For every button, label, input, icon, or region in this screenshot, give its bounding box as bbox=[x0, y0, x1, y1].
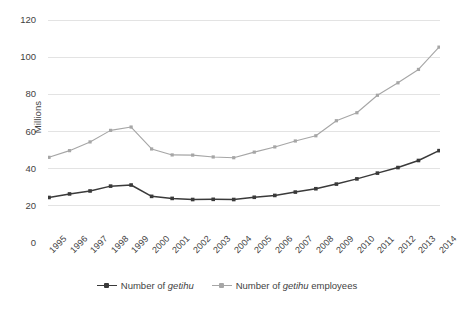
data-point: 2009: 65.8 bbox=[335, 119, 338, 122]
data-point: 1999: 31.2 bbox=[129, 183, 133, 187]
data-point: 2000: 50.6 bbox=[150, 147, 153, 150]
y-axis-tick-label: 120 bbox=[0, 15, 42, 25]
y-axis-tick-label: 20 bbox=[0, 201, 42, 211]
data-point: 2012: 86.2 bbox=[396, 81, 399, 84]
x-axis-tick-label: 2014 bbox=[437, 234, 459, 256]
data-point: 2012: 40.6 bbox=[396, 166, 400, 170]
data-point: 2005: 24.6 bbox=[252, 195, 256, 199]
legend-swatch-icon bbox=[97, 282, 117, 290]
y-axis-tick-label: 40 bbox=[0, 164, 42, 174]
data-point: 1996: 49.7 bbox=[68, 149, 71, 152]
data-point: 1997: 28 bbox=[88, 189, 92, 193]
data-point: 2008: 57.7 bbox=[314, 134, 317, 137]
data-point: 2003: 46.3 bbox=[212, 155, 215, 158]
data-point: 2011: 37.6 bbox=[376, 171, 380, 175]
data-point: 2008: 29.2 bbox=[314, 187, 318, 191]
data-point: 2014: 49.7 bbox=[437, 149, 440, 153]
y-axis-tick-labels: 020406080100120 bbox=[0, 0, 42, 311]
y-axis-tick-label: 60 bbox=[0, 127, 42, 137]
chart-plot-svg: 1995: 24.51996: 26.41997: 281998: 30.619… bbox=[48, 20, 440, 243]
data-point: 1996: 26.4 bbox=[68, 192, 72, 196]
y-axis-tick-label: 80 bbox=[0, 89, 42, 99]
data-point: 1995: 24.5 bbox=[48, 196, 51, 200]
legend-item-getihu[interactable]: Number of getihu bbox=[97, 280, 194, 291]
legend-label: Number of getihu employees bbox=[236, 280, 357, 291]
data-point: 2010: 70.1 bbox=[355, 111, 358, 114]
data-point: 2014: 105.4 bbox=[437, 46, 440, 49]
data-point: 2004: 45.9 bbox=[232, 156, 235, 159]
data-point: 1995: 46.1 bbox=[48, 156, 51, 159]
series-line bbox=[49, 47, 439, 158]
data-point: 2002: 23.4 bbox=[191, 198, 195, 202]
data-point: 2006: 51.7 bbox=[273, 145, 276, 148]
data-point: 2013: 44.4 bbox=[417, 159, 421, 163]
series-getihu: 1995: 24.51996: 26.41997: 281998: 30.619… bbox=[48, 149, 440, 201]
data-point: 2009: 31.7 bbox=[335, 182, 339, 186]
y-axis-tick-label: 0 bbox=[0, 238, 42, 248]
data-point: 2007: 54.9 bbox=[294, 139, 297, 142]
y-axis-tick-label: 100 bbox=[0, 52, 42, 62]
series-line bbox=[49, 151, 439, 200]
data-point: 1997: 54.4 bbox=[88, 140, 91, 143]
data-point: 2001: 47.4 bbox=[171, 153, 174, 156]
data-point: 1998: 60.6 bbox=[109, 129, 112, 132]
data-point: 1999: 62.4 bbox=[130, 125, 133, 128]
data-point: 2007: 27.4 bbox=[294, 190, 298, 194]
data-point: 1998: 30.6 bbox=[109, 184, 113, 188]
legend-item-getihu-employees[interactable]: Number of getihu employees bbox=[212, 280, 357, 291]
data-point: 2011: 79.5 bbox=[376, 94, 379, 97]
data-point: 2010: 34.5 bbox=[355, 177, 359, 181]
legend-swatch-icon bbox=[212, 282, 232, 290]
data-point: 2000: 25.1 bbox=[150, 195, 154, 199]
data-point: 2005: 48.9 bbox=[253, 151, 256, 154]
data-point: 2006: 25.6 bbox=[273, 194, 277, 198]
data-point: 2002: 47.3 bbox=[191, 154, 194, 157]
data-point: 2013: 93.4 bbox=[417, 68, 420, 71]
series-getihu-employees: 1995: 46.11996: 49.71997: 54.41998: 60.6… bbox=[48, 46, 440, 160]
chart-legend: Number of getihuNumber of getihu employe… bbox=[0, 280, 454, 291]
plot-area: 1995: 24.51996: 26.41997: 281998: 30.619… bbox=[48, 20, 440, 243]
data-point: 2004: 23.4 bbox=[232, 198, 236, 202]
data-point: 2001: 24 bbox=[170, 197, 174, 201]
data-point: 2003: 23.5 bbox=[211, 198, 215, 202]
legend-label: Number of getihu bbox=[121, 280, 194, 291]
